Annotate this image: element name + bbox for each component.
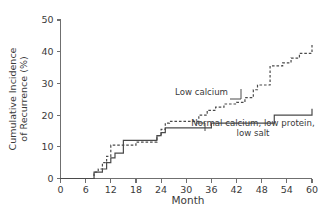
low-calcium-leader-line bbox=[230, 89, 241, 99]
x-tick-label: 12 bbox=[105, 184, 117, 195]
x-tick-label: 54 bbox=[281, 184, 293, 195]
y-tick-label: 0 bbox=[47, 173, 53, 184]
x-tick-label: 42 bbox=[231, 184, 243, 195]
y-axis-ticks: 01020304050 bbox=[41, 14, 60, 184]
annotation-normal-calcium-line2: low salt bbox=[237, 128, 271, 138]
x-axis-title: Month bbox=[172, 194, 205, 206]
chart-figure: 06121824303642485460 01020304050 Low cal… bbox=[0, 0, 328, 216]
y-tick-label: 50 bbox=[41, 14, 53, 25]
annotation-normal-calcium-line1: Normal calcium, low protein, bbox=[191, 118, 314, 128]
x-tick-label: 6 bbox=[83, 184, 89, 195]
y-tick-label: 30 bbox=[41, 78, 53, 89]
x-tick-label: 30 bbox=[180, 184, 192, 195]
annotation-low-calcium: Low calcium bbox=[175, 87, 228, 97]
x-axis-ticks: 06121824303642485460 bbox=[57, 179, 318, 195]
y-axis-title: Cumulative Incidence of Recurrence (%) bbox=[7, 47, 29, 150]
y-tick-label: 10 bbox=[41, 141, 53, 152]
x-tick-label: 24 bbox=[155, 184, 167, 195]
x-tick-label: 36 bbox=[205, 184, 217, 195]
y-axis-title-line2: of Recurrence (%) bbox=[18, 56, 29, 141]
y-tick-label: 20 bbox=[41, 110, 53, 121]
x-tick-label: 60 bbox=[306, 184, 318, 195]
x-tick-label: 48 bbox=[256, 184, 268, 195]
series-group bbox=[61, 44, 313, 179]
recurrence-cumulative-incidence-chart: 06121824303642485460 01020304050 Low cal… bbox=[0, 0, 328, 216]
x-tick-label: 18 bbox=[130, 184, 142, 195]
y-tick-label: 40 bbox=[41, 46, 53, 57]
x-tick-label: 0 bbox=[57, 184, 63, 195]
series-line-dashed bbox=[61, 44, 313, 179]
y-axis-title-line1: Cumulative Incidence bbox=[7, 47, 18, 150]
